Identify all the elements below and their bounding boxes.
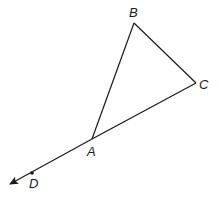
segment-bc [134,23,196,83]
geometry-diagram: B C A D [0,0,219,199]
ray-ad [10,139,92,184]
label-c: C [199,78,208,91]
segment-ab [92,23,134,139]
segment-ca [92,83,196,139]
triangle-figure [0,0,219,199]
label-d: D [29,177,38,190]
label-b: B [129,6,138,19]
label-a: A [87,145,96,158]
point-d-dot [30,171,34,175]
